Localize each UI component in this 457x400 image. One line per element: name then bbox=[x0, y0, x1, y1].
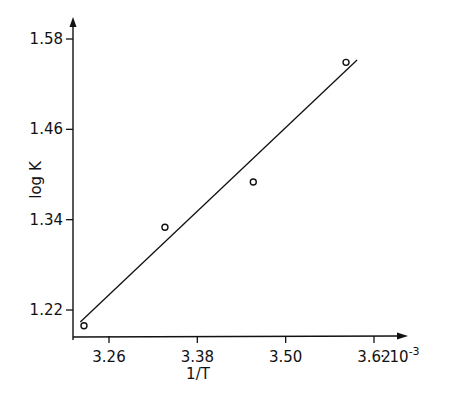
x-axis-label: 1/T bbox=[186, 365, 211, 383]
data-point-marker bbox=[81, 323, 87, 329]
y-tick-label: 1.34 bbox=[30, 211, 63, 229]
x-tick-label: 3.26 bbox=[92, 348, 125, 366]
y-axis-label: log K bbox=[27, 160, 45, 199]
y-tick-label: 1.46 bbox=[30, 120, 63, 138]
x-tick-label: 3.38 bbox=[181, 348, 214, 366]
x-axis-multiplier: · 10-3 bbox=[380, 345, 420, 366]
x-axis: 3.263.383.503.62 bbox=[73, 333, 408, 367]
data-point-marker bbox=[343, 59, 349, 65]
y-tick-label: 1.58 bbox=[30, 30, 63, 48]
x-tick-label: 3.50 bbox=[269, 348, 302, 366]
log-k-vs-inverse-t-chart: 1.221.341.461.58 3.263.383.503.62 log K … bbox=[0, 0, 457, 400]
plot-area bbox=[80, 59, 357, 328]
x-axis-arrow-icon bbox=[397, 333, 408, 340]
y-tick-label: 1.22 bbox=[30, 301, 63, 319]
data-point-marker bbox=[250, 179, 256, 185]
data-point-marker bbox=[162, 224, 168, 230]
y-axis-arrow-icon bbox=[70, 17, 77, 27]
fit-line bbox=[80, 60, 357, 322]
